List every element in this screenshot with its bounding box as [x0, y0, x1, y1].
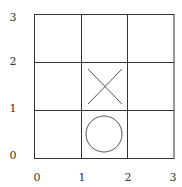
o-mark	[86, 116, 122, 152]
y-tick-label-0: 0	[10, 150, 17, 161]
x-mark	[88, 69, 122, 104]
y-tick-label-2: 2	[10, 56, 17, 67]
tic-tac-toe-board	[0, 0, 182, 187]
x-tick-label-2: 2	[125, 172, 132, 183]
x-tick-label-3: 3	[170, 172, 177, 183]
y-tick-label-1: 1	[10, 103, 17, 114]
grid-border	[35, 15, 175, 159]
grid-lines	[35, 15, 175, 159]
y-tick-label-3: 3	[10, 12, 17, 23]
x-tick-label-0: 0	[34, 172, 41, 183]
x-tick-label-1: 1	[79, 172, 86, 183]
